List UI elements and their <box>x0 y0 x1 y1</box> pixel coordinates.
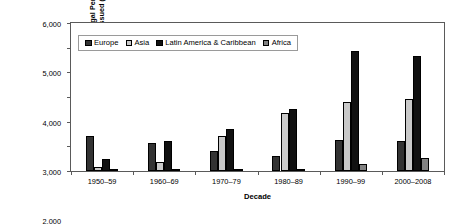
x-tick-label: 1950–59 <box>88 177 117 186</box>
x-tick-label: 1960–69 <box>150 177 179 186</box>
y-tick-label: 3,000 <box>43 168 62 177</box>
bar <box>172 169 180 171</box>
bar <box>164 141 172 171</box>
legend-label: Latin America & Caribbean <box>165 39 255 47</box>
bar <box>359 164 367 171</box>
x-tick-label: 1970–79 <box>212 177 241 186</box>
bar <box>281 113 289 171</box>
bar <box>148 143 156 171</box>
bar <box>94 167 102 171</box>
bar <box>351 51 359 171</box>
y-tick-label: 5,000 <box>43 69 62 78</box>
bar <box>413 56 421 171</box>
bar <box>210 151 218 171</box>
x-tick <box>382 171 383 175</box>
bar <box>102 159 110 171</box>
x-tick-label: 2000–2008 <box>394 177 431 186</box>
bar-group <box>382 23 444 171</box>
x-tick <box>195 171 196 175</box>
legend-label: Africa <box>272 39 291 47</box>
y-tick-label: 2,000 <box>43 217 62 224</box>
x-tick-label: 1980–89 <box>274 177 303 186</box>
x-tick <box>258 171 259 175</box>
legend-swatch-icon <box>263 40 270 47</box>
bar <box>218 136 226 171</box>
legend-swatch-icon <box>85 40 92 47</box>
bar <box>156 162 164 171</box>
bar <box>289 109 297 171</box>
x-tick <box>320 171 321 175</box>
bar <box>335 140 343 171</box>
legend-label: Asia <box>135 39 150 47</box>
chart-legend: EuropeAsiaLatin America & CaribbeanAfric… <box>78 35 298 51</box>
bar <box>110 169 118 171</box>
bar-group <box>320 23 382 171</box>
legend-swatch-icon <box>126 40 133 47</box>
x-tick <box>71 171 72 175</box>
bar <box>405 99 413 171</box>
y-axis-title: Number of Legal Permanenet Resident Visa… <box>14 0 42 44</box>
y-tick-label: 4,000 <box>43 118 62 127</box>
x-tick-label: 1990–99 <box>336 177 365 186</box>
x-axis-title: Decade <box>70 192 445 201</box>
legend-swatch-icon <box>156 40 163 47</box>
bar <box>421 158 429 171</box>
legend-item: Europe <box>85 39 119 47</box>
bar <box>226 129 234 171</box>
bar <box>272 156 280 171</box>
legend-label: Europe <box>94 39 119 47</box>
bar <box>234 169 242 171</box>
x-tick <box>133 171 134 175</box>
y-tick-label: 6,000 <box>43 20 62 29</box>
legend-item: Latin America & Caribbean <box>156 39 255 47</box>
bar <box>397 141 405 171</box>
bar-chart-figure: Number of Legal Permanenet Resident Visa… <box>0 0 455 224</box>
bar <box>297 169 305 171</box>
legend-item: Asia <box>126 39 150 47</box>
x-tick <box>444 171 445 175</box>
bar <box>343 102 351 171</box>
legend-item: Africa <box>263 39 291 47</box>
bar <box>86 136 94 171</box>
